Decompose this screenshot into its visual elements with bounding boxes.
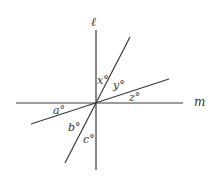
angle-label-z: z° [128,91,140,104]
label-line-m: m [194,95,205,109]
angle-diagram: ℓ m x° y° z° a° b° c° [0,0,218,176]
line-steep [65,37,130,163]
angle-label-a: a° [53,104,65,117]
angle-label-c: c° [83,133,95,146]
angle-label-y: y° [112,79,125,92]
label-line-l: ℓ [91,15,96,29]
angle-label-x: x° [97,74,109,87]
angle-label-b: b° [68,121,81,134]
